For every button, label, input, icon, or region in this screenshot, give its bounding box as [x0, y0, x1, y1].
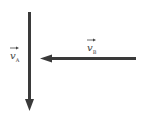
vector-arrow-icon: [10, 46, 19, 50]
vector-b-arrow: [40, 55, 136, 63]
vector-a-arrow: [25, 12, 34, 111]
vector-b-subscript: B: [93, 49, 97, 55]
vector-arrow-icon: [87, 38, 96, 42]
vector-b-label: vB: [87, 43, 96, 55]
vector-a-label: vA: [10, 51, 19, 63]
vector-a-subscript: A: [16, 57, 20, 63]
vector-diagram: [0, 0, 146, 118]
